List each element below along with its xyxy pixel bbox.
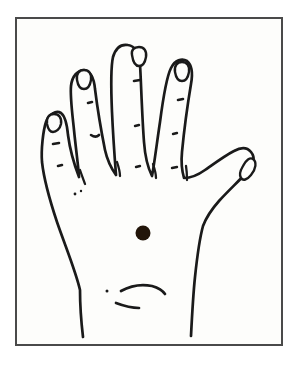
- joint-mark-ring-distal: [88, 102, 92, 103]
- fingernail-index-finger: [175, 62, 189, 81]
- joint-mark-little-distal: [53, 143, 59, 144]
- figure-container: Hand outline diagram with marked point o…: [0, 0, 304, 367]
- joint-mark-index-distal: [178, 99, 183, 100]
- knuckle-dot-little-lower: [80, 190, 82, 192]
- valley-tick-index-thumb: [186, 166, 187, 180]
- joint-mark-little-proximal: [58, 165, 62, 166]
- palm-point-marker: [136, 226, 151, 241]
- knuckle-dot-little: [74, 193, 77, 196]
- fingernail-ring-finger: [77, 70, 91, 89]
- fingernail-little-finger: [47, 114, 61, 132]
- joint-mark-index-mid: [173, 133, 177, 134]
- joint-mark-middle-distal: [134, 80, 140, 81]
- knuckle-mark-middle: [172, 167, 177, 168]
- hand-diagram-svg: [0, 0, 304, 367]
- wrist-dot: [106, 290, 109, 293]
- joint-mark-middle-mid: [135, 125, 139, 126]
- knuckle-mark-ring: [136, 166, 140, 167]
- fingernail-middle-finger: [132, 47, 146, 66]
